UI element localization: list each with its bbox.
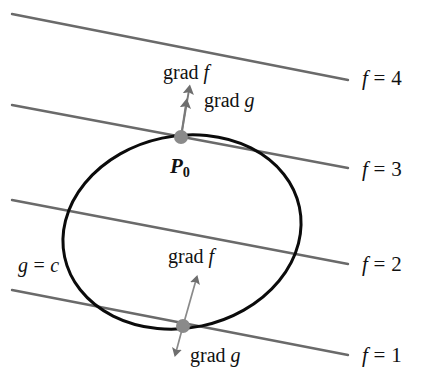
level-label-f1: f = 1	[362, 345, 402, 366]
point-p0-dot	[174, 130, 188, 144]
constraint-label-eq: =	[34, 254, 45, 276]
upper-gradient-vectors	[181, 90, 189, 137]
upper-grad-f-field: f	[204, 61, 210, 83]
lower-grad-f-arrow	[183, 280, 196, 326]
level-label-f4-symbol: f	[362, 66, 368, 90]
lower-gradient-vectors	[176, 280, 196, 352]
point-p0-label: P0	[170, 156, 190, 179]
upper-grad-f-word: grad	[163, 61, 199, 83]
level-label-f2: f = 2	[362, 254, 402, 275]
lower-point-dot	[176, 319, 190, 333]
lower-grad-f-field: f	[209, 245, 215, 267]
upper-grad-f-label: grad f	[163, 62, 209, 82]
upper-grad-g-word: grad	[204, 89, 240, 111]
upper-grad-g-field: g	[245, 89, 255, 111]
point-p0-subscript: 0	[183, 164, 190, 180]
level-label-f2-eq: =	[374, 252, 386, 276]
lower-grad-g-label: grad g	[190, 345, 241, 365]
lower-grad-g-field: g	[231, 344, 241, 366]
constraint-label-value: c	[50, 254, 59, 276]
lagrange-multiplier-figure: f = 4 f = 3 f = 2 f = 1 g = c P0 grad f …	[0, 0, 434, 380]
level-label-f2-symbol: f	[362, 252, 368, 276]
constraint-label: g = c	[18, 255, 59, 275]
lower-grad-g-word: grad	[190, 344, 226, 366]
level-label-f4-eq: =	[374, 66, 386, 90]
level-label-f3-symbol: f	[362, 157, 368, 181]
level-label-f1-symbol: f	[362, 343, 368, 367]
level-label-f3-value: 3	[391, 157, 402, 181]
upper-grad-g-label: grad g	[204, 90, 255, 110]
level-label-f1-eq: =	[374, 343, 386, 367]
level-label-f3-eq: =	[374, 157, 386, 181]
lower-grad-f-label: grad f	[168, 246, 214, 266]
level-label-f1-value: 1	[391, 343, 402, 367]
level-label-f4-value: 4	[391, 66, 402, 90]
point-p0-name: P	[170, 154, 183, 178]
level-label-f3: f = 3	[362, 159, 402, 180]
lower-grad-f-word: grad	[168, 245, 204, 267]
figure-canvas	[0, 0, 434, 380]
level-label-f2-value: 2	[391, 252, 402, 276]
constraint-label-symbol: g	[18, 254, 28, 276]
level-label-f4: f = 4	[362, 68, 402, 89]
